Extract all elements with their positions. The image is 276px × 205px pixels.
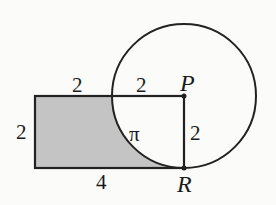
label-top-left-2: 2	[72, 75, 83, 96]
point-r-dot	[182, 166, 187, 171]
label-pi-region: π	[129, 124, 140, 145]
label-left-side-2: 2	[16, 122, 27, 143]
label-bottom-4: 4	[96, 172, 107, 193]
label-point-p: P	[180, 71, 195, 95]
geometry-diagram	[0, 0, 276, 205]
label-top-right-2: 2	[136, 75, 147, 96]
label-point-r: R	[177, 172, 192, 196]
label-radius-2: 2	[190, 123, 201, 144]
shaded-region	[35, 96, 184, 168]
